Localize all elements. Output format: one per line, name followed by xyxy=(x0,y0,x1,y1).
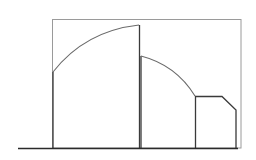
segment-2 xyxy=(141,56,195,148)
diagram-canvas xyxy=(0,0,256,160)
segment-3 xyxy=(196,97,237,149)
outer-frame xyxy=(53,20,242,149)
segment-1-top-arc xyxy=(53,25,139,72)
segment-3-outline xyxy=(196,97,237,149)
segment-2-top-arc xyxy=(141,56,195,96)
segment-1 xyxy=(53,25,140,148)
